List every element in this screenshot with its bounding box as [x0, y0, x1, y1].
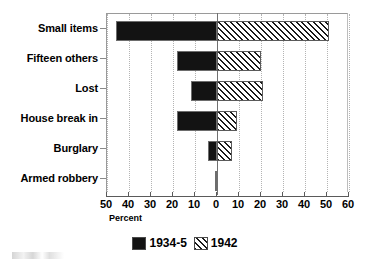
chart-row [107, 76, 347, 106]
legend-swatch-solid-icon [132, 237, 146, 250]
x-axis-title: Percent [109, 213, 142, 223]
bar-1942 [217, 111, 237, 131]
legend-label-1934-5: 1934-5 [149, 236, 186, 250]
bar-1942 [217, 141, 232, 161]
x-tick-mark [348, 192, 349, 197]
y-axis-label-small-items: Small items [0, 22, 98, 34]
chart-row [107, 136, 347, 166]
bar-1942 [217, 21, 329, 41]
x-axis-line [106, 196, 348, 197]
legend-swatch-hatch-icon [194, 237, 208, 250]
legend-label-1942: 1942 [211, 236, 238, 250]
x-tick-mark [282, 192, 283, 197]
bar-1934-5 [208, 141, 217, 161]
bar-1934-5 [191, 81, 217, 101]
chart-row [107, 106, 347, 136]
y-axis-label-lost: Lost [0, 82, 98, 94]
y-tick-mark [100, 118, 106, 119]
chart-row [107, 16, 347, 46]
x-tick-mark [238, 192, 239, 197]
y-tick-mark [100, 148, 106, 149]
y-axis-label-burglary: Burglary [0, 142, 98, 154]
x-tick-mark [106, 192, 107, 197]
bar-1934-5 [215, 171, 217, 191]
y-tick-mark [100, 88, 106, 89]
chart-row [107, 166, 347, 196]
y-axis-label-armed-robbery: Armed robbery [0, 172, 98, 184]
legend-entry-1934-5: 1934-5 [132, 236, 186, 250]
x-tick-mark [128, 192, 129, 197]
bar-1942 [217, 81, 263, 101]
chart-row [107, 46, 347, 76]
bar-1934-5 [116, 21, 217, 41]
x-tick-label: 60 [335, 198, 361, 210]
x-tick-mark [304, 192, 305, 197]
x-tick-mark [194, 192, 195, 197]
x-tick-mark [150, 192, 151, 197]
y-tick-mark [100, 178, 106, 179]
bar-1934-5 [177, 51, 217, 71]
plot-area [106, 13, 348, 192]
legend-entry-1942: 1942 [194, 236, 238, 250]
x-tick-mark [326, 192, 327, 197]
x-tick-mark [172, 192, 173, 197]
x-tick-mark [260, 192, 261, 197]
y-axis-label-fifteen-others: Fifteen others [0, 52, 98, 64]
x-tick-mark [216, 192, 217, 197]
bar-1942 [217, 51, 261, 71]
gridline [349, 14, 350, 192]
bar-1934-5 [177, 111, 217, 131]
y-axis-label-house-break-in: House break in [0, 112, 98, 124]
y-tick-mark [100, 58, 106, 59]
page-scan-artifact [12, 252, 64, 259]
y-tick-mark [100, 28, 106, 29]
chart-legend: 1934-5 1942 [0, 236, 370, 250]
chart-figure: Small items Fifteen others Lost House br… [0, 0, 370, 262]
